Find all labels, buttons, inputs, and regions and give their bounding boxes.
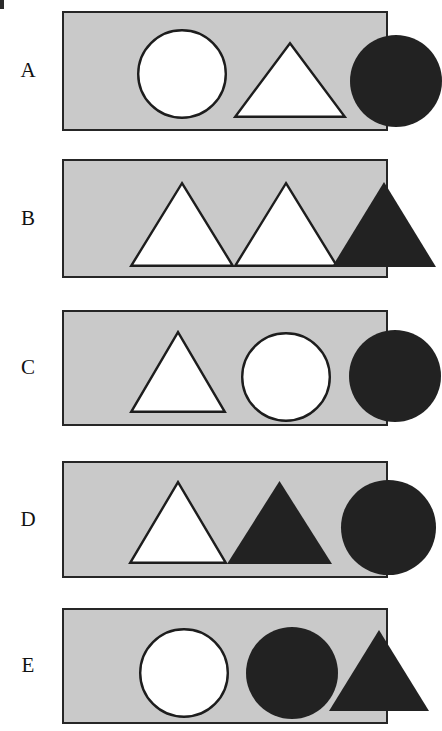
shape-panel-d: [62, 461, 388, 578]
shape-panel-a: [62, 11, 388, 131]
circle-outline-white: [241, 332, 331, 422]
circle-outline-white: [137, 29, 227, 119]
row-label-b: B: [8, 208, 48, 229]
triangle-outline-white: [130, 331, 226, 413]
row-label-c: C: [8, 357, 48, 378]
shape-panel-e: [62, 608, 388, 724]
circle-solid-dark: [349, 330, 441, 422]
corner-artifact-mark: [0, 0, 4, 9]
circle-outline-white: [139, 628, 229, 718]
row-label-a: A: [8, 60, 48, 81]
circle-solid-dark: [350, 35, 442, 127]
row-label-e: E: [8, 655, 48, 676]
triangle-solid-dark: [332, 182, 436, 267]
triangle-solid-dark: [329, 630, 429, 711]
shape-panel-b: [62, 159, 388, 278]
triangle-outline-white: [130, 182, 234, 267]
circle-solid-dark: [341, 480, 436, 575]
shape-panel-c: [62, 310, 388, 426]
circle-solid-dark: [246, 627, 338, 719]
triangle-outline-white: [234, 182, 338, 267]
triangle-outline-white: [129, 481, 227, 564]
panel-inner: [64, 610, 386, 722]
panel-inner: [64, 161, 386, 276]
panel-inner: [64, 463, 386, 576]
triangle-outline-white: [234, 42, 346, 118]
row-label-d: D: [8, 509, 48, 530]
triangle-solid-dark: [227, 481, 332, 564]
panel-inner: [64, 312, 386, 424]
panel-inner: [64, 13, 386, 129]
